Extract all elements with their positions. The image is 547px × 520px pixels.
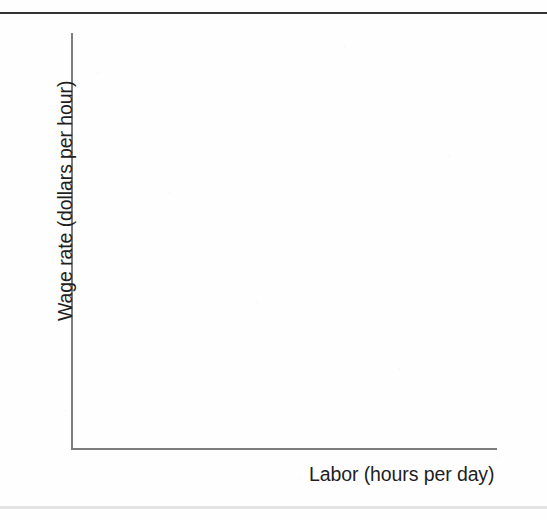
page-top-rule — [0, 12, 547, 14]
figure-canvas: Wage rate (dollars per hour) Labor (hour… — [0, 0, 547, 520]
page-bottom-band — [0, 506, 547, 509]
x-axis-title: Labor (hours per day) — [309, 461, 494, 487]
empty-plot-area — [73, 33, 497, 448]
x-axis-line — [71, 448, 497, 450]
y-axis-title: Wage rate (dollars per hour) — [52, 21, 78, 321]
